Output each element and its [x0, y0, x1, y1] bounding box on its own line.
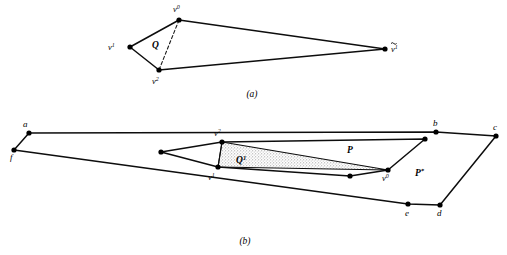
vertex-e: [405, 201, 410, 206]
region-label-P: P: [347, 145, 353, 155]
caption-b: (b): [239, 236, 250, 247]
vertex-inner-left: [158, 149, 163, 154]
panel-a-diagonal-v0-v2: [159, 20, 179, 70]
label-d: d: [437, 208, 442, 218]
vertex-v2-b: [219, 139, 224, 144]
caption-a: (a): [246, 89, 257, 100]
label-v2-b: v2: [214, 128, 221, 138]
vertex-v0-b: [385, 167, 390, 172]
vertex-b: [433, 129, 438, 134]
label-v0: v0: [173, 4, 180, 14]
label-b: b: [433, 118, 438, 128]
vertex-v0: [176, 17, 181, 22]
panel-a: v0 v1 v2 v1 Q (a): [108, 4, 398, 100]
vertex-v1-tilde: [382, 46, 387, 51]
vertex-a: [26, 130, 31, 135]
geometry-figure-canvas: v0 v1 v2 v1 Q (a): [0, 0, 507, 255]
vertex-v1-b: [215, 164, 220, 169]
vertex-inner-bottom: [347, 173, 352, 178]
vertex-v2: [156, 67, 161, 72]
region-label-Q: Q: [152, 40, 159, 50]
label-v1-tilde: v1: [391, 44, 398, 54]
label-e: e: [405, 208, 409, 218]
panel-a-polygon-outline: [130, 20, 385, 70]
panel-b: a b c d e f v2 v1 v0 Q1 P P*: [10, 118, 499, 247]
label-v1-b: v1: [208, 172, 215, 182]
vertex-v1: [127, 44, 132, 49]
label-c: c: [493, 122, 497, 132]
vertex-d: [437, 202, 442, 207]
vertex-c: [493, 133, 498, 138]
label-v2: v2: [152, 76, 159, 86]
label-f: f: [10, 152, 14, 162]
label-v0-b: v0: [382, 173, 389, 183]
figure-root: v0 v1 v2 v1 Q (a): [0, 0, 507, 255]
label-a: a: [23, 119, 28, 129]
label-v1: v1: [108, 42, 115, 52]
label-v1-tilde-group: v1: [391, 43, 398, 54]
vertex-inner-topright: [422, 136, 427, 141]
region-label-Pstar: P*: [415, 167, 425, 179]
